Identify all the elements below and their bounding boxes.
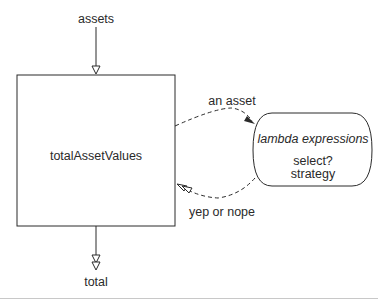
input-label: assets xyxy=(78,13,114,26)
lambda-line-1: select? xyxy=(293,155,333,168)
output-label: total xyxy=(84,276,108,289)
lambda-title: lambda expressions xyxy=(257,133,368,146)
from-lambda-arrow xyxy=(177,178,255,198)
from-lambda-label: yep or nope xyxy=(189,206,255,219)
to-lambda-label: an asset xyxy=(208,95,255,108)
main-box-label: totalAssetValues xyxy=(50,150,142,163)
input-arrow xyxy=(92,27,100,74)
lambda-line-2: strategy xyxy=(291,168,335,181)
output-arrow xyxy=(92,226,100,270)
to-lambda-arrow xyxy=(175,108,255,126)
caption-divider xyxy=(0,298,378,299)
